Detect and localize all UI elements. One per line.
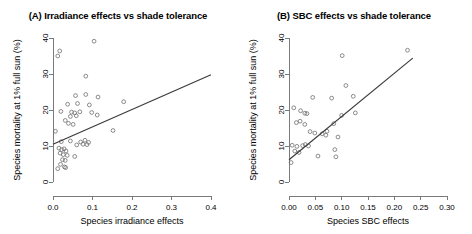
- x-tick-label: 0.4: [205, 203, 217, 212]
- data-point: [95, 113, 99, 117]
- data-point: [308, 130, 312, 134]
- data-point: [122, 100, 126, 104]
- data-point: [293, 149, 297, 153]
- y-tick-label: 40: [41, 33, 50, 42]
- data-point: [344, 84, 348, 88]
- regression-line: [289, 58, 413, 160]
- data-point: [311, 96, 315, 100]
- data-point: [68, 115, 72, 119]
- data-point: [56, 167, 60, 171]
- y-tick-label: 40: [277, 33, 286, 42]
- y-axis-title: Species mortality at 1% full sun (%): [12, 39, 22, 181]
- data-point: [67, 121, 71, 125]
- data-point: [59, 110, 63, 114]
- data-point: [353, 111, 357, 115]
- x-tick-label: 0.05: [308, 203, 324, 212]
- y-tick-label: 10: [41, 141, 50, 150]
- data-point: [324, 133, 328, 137]
- data-point: [334, 155, 338, 159]
- panel-b: (B) SBC effects vs shade tolerance 01020…: [236, 0, 472, 234]
- x-tick-label: 0.2: [126, 203, 138, 212]
- data-point: [298, 119, 302, 123]
- x-tick-label: 0.00: [281, 203, 297, 212]
- data-point: [316, 154, 320, 158]
- data-point: [61, 153, 65, 157]
- data-point: [76, 102, 80, 106]
- data-point: [83, 138, 87, 142]
- data-point: [87, 103, 91, 107]
- data-point: [56, 54, 60, 58]
- data-point: [289, 161, 293, 165]
- data-point: [90, 111, 94, 115]
- y-tick-label: 30: [41, 69, 50, 78]
- panel-b-plot: 0102030400.000.050.100.150.200.250.30Spe…: [236, 0, 472, 234]
- data-point: [68, 139, 72, 143]
- data-point: [81, 142, 85, 146]
- x-tick-label: 0.15: [360, 203, 376, 212]
- data-point: [294, 121, 298, 125]
- panel-a-plot: 0102030400.00.10.20.30.4Species irradian…: [0, 0, 236, 234]
- y-tick-label: 0: [277, 179, 286, 184]
- x-tick-label: 0.10: [334, 203, 350, 212]
- data-point: [65, 153, 69, 157]
- data-point: [351, 94, 355, 98]
- x-tick-label: 0.0: [47, 203, 59, 212]
- data-point: [295, 144, 299, 148]
- y-tick-label: 20: [41, 105, 50, 114]
- data-point: [75, 143, 79, 147]
- data-point: [303, 123, 307, 127]
- x-axis-title: Species SBC effects: [327, 216, 409, 226]
- data-point: [313, 131, 317, 135]
- data-point: [74, 94, 78, 98]
- data-point: [63, 119, 67, 123]
- y-tick-label: 10: [277, 141, 286, 150]
- data-point: [59, 162, 63, 166]
- x-tick-label: 0.1: [87, 203, 99, 212]
- data-point: [336, 135, 340, 139]
- y-tick-label: 30: [277, 69, 286, 78]
- data-point: [92, 39, 96, 43]
- data-point: [292, 106, 296, 110]
- data-point: [333, 148, 337, 152]
- data-point: [84, 93, 88, 97]
- x-tick-label: 0.3: [166, 203, 178, 212]
- panel-a: (A) Irradiance effects vs shade toleranc…: [0, 0, 236, 234]
- data-point: [96, 95, 100, 99]
- data-point: [111, 129, 115, 133]
- y-tick-label: 0: [41, 179, 50, 184]
- data-point: [53, 129, 57, 133]
- figure-canvas: (A) Irradiance effects vs shade toleranc…: [0, 0, 472, 234]
- data-point: [79, 140, 83, 144]
- data-point: [340, 54, 344, 58]
- regression-line: [53, 75, 211, 144]
- y-axis-title: Species mortality at 1% full sun (%): [248, 39, 258, 181]
- x-tick-label: 0.30: [439, 203, 455, 212]
- data-point: [66, 102, 70, 106]
- data-point: [84, 74, 88, 78]
- data-point: [330, 96, 334, 100]
- data-point: [64, 166, 68, 170]
- data-point: [73, 155, 77, 159]
- data-point: [58, 49, 62, 53]
- x-axis-title: Species irradiance effects: [81, 216, 184, 226]
- data-point: [299, 109, 303, 113]
- y-tick-label: 20: [277, 105, 286, 114]
- data-point: [71, 123, 75, 127]
- data-point: [406, 48, 410, 52]
- x-tick-label: 0.25: [413, 203, 429, 212]
- x-tick-label: 0.20: [387, 203, 403, 212]
- data-point: [78, 110, 82, 114]
- data-point: [290, 143, 294, 147]
